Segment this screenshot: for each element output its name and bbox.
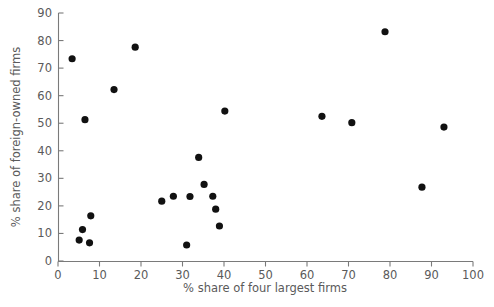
data-point xyxy=(170,193,177,200)
y-tick-label: 10 xyxy=(37,226,52,240)
x-tick-label: 60 xyxy=(300,268,315,282)
x-tick-label: 80 xyxy=(383,268,398,282)
data-point xyxy=(87,212,94,219)
x-tick-label: 70 xyxy=(341,268,356,282)
y-tick-label: 30 xyxy=(37,171,52,185)
y-tick-label: 70 xyxy=(37,61,52,75)
data-point xyxy=(318,113,325,120)
data-point xyxy=(183,241,190,248)
x-axis-title: % share of four largest firms xyxy=(183,281,347,295)
data-point xyxy=(212,206,219,213)
data-point xyxy=(86,239,93,246)
y-tick-label: 60 xyxy=(37,89,52,103)
data-point xyxy=(76,236,83,243)
data-point xyxy=(200,181,207,188)
data-point xyxy=(69,55,76,62)
y-axis-tick-marks xyxy=(59,13,64,261)
x-tick-label: 20 xyxy=(134,268,149,282)
y-tick-label: 0 xyxy=(45,254,52,268)
x-axis-tick-marks xyxy=(58,262,473,267)
y-axis-tick-labels: 0102030405060708090 xyxy=(37,6,52,268)
data-point xyxy=(158,198,165,205)
x-tick-label: 50 xyxy=(258,268,273,282)
scatter-plot-figure: 0102030405060708090 01020304050607080901… xyxy=(0,0,494,307)
data-point xyxy=(209,193,216,200)
y-tick-label: 90 xyxy=(37,6,52,20)
x-tick-label: 10 xyxy=(92,268,107,282)
x-tick-label: 30 xyxy=(175,268,190,282)
data-points-layer xyxy=(69,28,448,248)
y-axis-title: % share of foreign-owned firms xyxy=(9,47,23,227)
x-axis-tick-labels: 0102030405060708090100 xyxy=(54,268,484,282)
x-tick-label: 40 xyxy=(217,268,232,282)
x-tick-label: 0 xyxy=(54,268,61,282)
x-tick-label: 100 xyxy=(462,268,484,282)
x-tick-label: 90 xyxy=(424,268,439,282)
data-point xyxy=(186,193,193,200)
data-point xyxy=(440,123,447,130)
data-point xyxy=(132,44,139,51)
data-point xyxy=(79,226,86,233)
data-point xyxy=(81,116,88,123)
data-point xyxy=(418,184,425,191)
y-tick-label: 40 xyxy=(37,144,52,158)
y-tick-label: 20 xyxy=(37,199,52,213)
data-point xyxy=(221,108,228,115)
plot-canvas: 0102030405060708090 01020304050607080901… xyxy=(0,0,494,307)
y-tick-label: 80 xyxy=(37,34,52,48)
data-point xyxy=(110,86,117,93)
data-point xyxy=(195,154,202,161)
data-point xyxy=(216,222,223,229)
data-point xyxy=(348,119,355,126)
data-point xyxy=(381,28,388,35)
y-tick-label: 50 xyxy=(37,116,52,130)
